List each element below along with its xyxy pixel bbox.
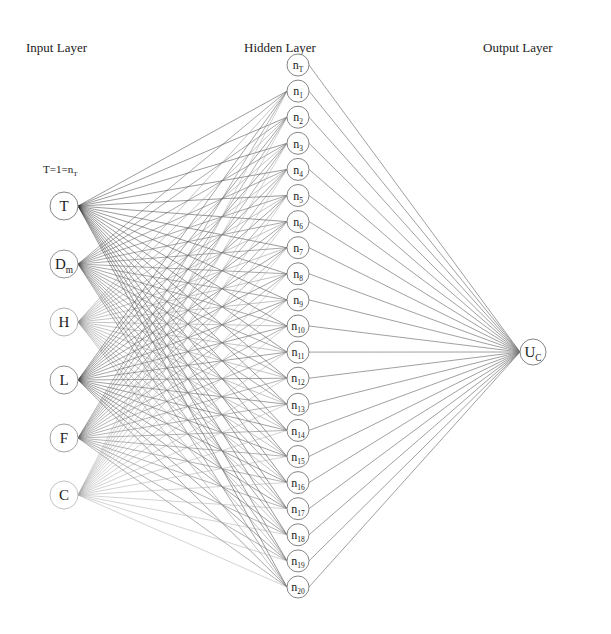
connection-line xyxy=(78,117,287,380)
connection-line xyxy=(309,352,520,587)
hidden-node-n17: n17 xyxy=(287,498,309,520)
connection-line xyxy=(78,380,287,561)
connection-line xyxy=(78,117,287,322)
connection-line xyxy=(78,169,287,495)
connection-line xyxy=(78,206,287,248)
output-layer-nodes: UC xyxy=(520,339,546,365)
connection-line xyxy=(309,143,520,352)
connection-line xyxy=(309,352,520,483)
connection-line xyxy=(78,91,287,264)
connection-line xyxy=(309,352,520,457)
hidden-node-n2: n2 xyxy=(287,106,309,128)
hidden-node-n16: n16 xyxy=(287,472,309,494)
connection-line xyxy=(78,206,287,300)
connection-line xyxy=(78,322,287,587)
neural-network-diagram: TDmHLFC nTn1n2n3n4n5n6n7n8n9n10n11n12n13… xyxy=(0,0,611,634)
hidden-node-n8: n8 xyxy=(287,263,309,285)
connection-line xyxy=(309,352,520,378)
connection-line xyxy=(78,274,287,380)
connection-line xyxy=(309,117,520,352)
connection-line xyxy=(309,65,520,352)
node-label: T xyxy=(59,198,68,214)
connection-line xyxy=(309,352,520,404)
connection-line xyxy=(309,352,520,561)
input-node-t: T xyxy=(50,192,78,220)
connection-line xyxy=(78,438,287,561)
input-hidden-connections xyxy=(78,91,287,587)
input-node-dm: Dm xyxy=(50,250,78,278)
connection-line xyxy=(78,378,287,438)
connection-line xyxy=(78,117,287,495)
hidden-node-nt: nT xyxy=(287,54,309,76)
hidden-node-n10: n10 xyxy=(287,315,309,337)
connection-line xyxy=(78,380,287,535)
hidden-output-connections xyxy=(309,65,520,587)
hidden-node-n15: n15 xyxy=(287,446,309,468)
hidden-node-n5: n5 xyxy=(287,185,309,207)
hidden-node-n6: n6 xyxy=(287,211,309,233)
connection-line xyxy=(309,169,520,352)
input-node-h: H xyxy=(50,308,78,336)
connection-line xyxy=(309,196,520,353)
connection-line xyxy=(309,352,520,509)
connection-line xyxy=(78,483,287,495)
connection-line xyxy=(78,300,287,438)
connection-line xyxy=(78,495,287,509)
connection-line xyxy=(78,91,287,206)
hidden-node-n9: n9 xyxy=(287,289,309,311)
connection-line xyxy=(309,352,520,430)
connection-line xyxy=(78,206,287,457)
hidden-node-n7: n7 xyxy=(287,237,309,259)
input-node-l: L xyxy=(50,366,78,394)
connection-line xyxy=(78,143,287,495)
connection-line xyxy=(309,326,520,352)
hidden-node-n18: n18 xyxy=(287,524,309,546)
connection-line xyxy=(78,264,287,587)
connection-line xyxy=(78,169,287,264)
connection-line xyxy=(78,322,287,535)
hidden-node-n14: n14 xyxy=(287,419,309,441)
output-node-uc: UC xyxy=(520,339,546,365)
hidden-node-n13: n13 xyxy=(287,393,309,415)
hidden-node-n20: n20 xyxy=(287,576,309,598)
connection-line xyxy=(78,380,287,587)
connection-line xyxy=(78,117,287,264)
input-node-f: F xyxy=(50,424,78,452)
hidden-node-n4: n4 xyxy=(287,158,309,180)
connection-line xyxy=(78,378,287,380)
connection-line xyxy=(78,264,287,274)
input-layer-nodes: TDmHLFC xyxy=(50,192,78,509)
connection-line xyxy=(309,248,520,352)
connection-line xyxy=(78,117,287,438)
hidden-node-n11: n11 xyxy=(287,341,309,363)
connection-line xyxy=(78,438,287,535)
node-label: C xyxy=(59,487,69,503)
connection-line xyxy=(78,322,287,430)
connection-line xyxy=(78,206,287,509)
node-label: F xyxy=(60,430,68,446)
connection-line xyxy=(78,495,287,561)
hidden-layer-nodes: nTn1n2n3n4n5n6n7n8n9n10n11n12n13n14n15n1… xyxy=(287,54,309,598)
connection-line xyxy=(78,322,287,483)
node-label: L xyxy=(59,372,68,388)
connection-line xyxy=(309,300,520,352)
hidden-node-n1: n1 xyxy=(287,80,309,102)
connection-line xyxy=(78,264,287,300)
connection-line xyxy=(78,264,287,561)
connection-line xyxy=(78,322,287,326)
connection-line xyxy=(78,495,287,535)
hidden-node-n3: n3 xyxy=(287,132,309,154)
connection-line xyxy=(78,326,287,495)
node-label: H xyxy=(59,314,70,330)
hidden-node-n12: n12 xyxy=(287,367,309,389)
connection-line xyxy=(309,352,520,535)
input-node-c: C xyxy=(50,481,78,509)
connection-line xyxy=(78,380,287,457)
hidden-node-n19: n19 xyxy=(287,550,309,572)
connection-line xyxy=(78,495,287,587)
connection-line xyxy=(309,222,520,352)
